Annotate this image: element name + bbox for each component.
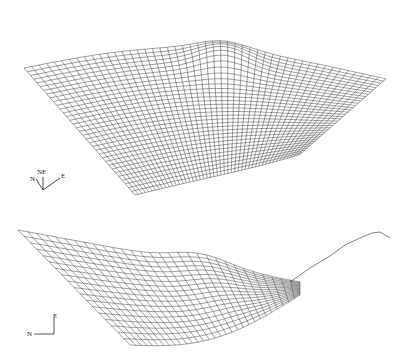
compass-e-label: E [61,173,65,180]
figure: N NE E N E [0,0,411,358]
compass-n-label: N [30,176,35,183]
compass-e-label-bottom: E [53,313,57,320]
compass-ne-label: NE [37,169,46,176]
compass-n-label-bottom: N [27,331,32,338]
